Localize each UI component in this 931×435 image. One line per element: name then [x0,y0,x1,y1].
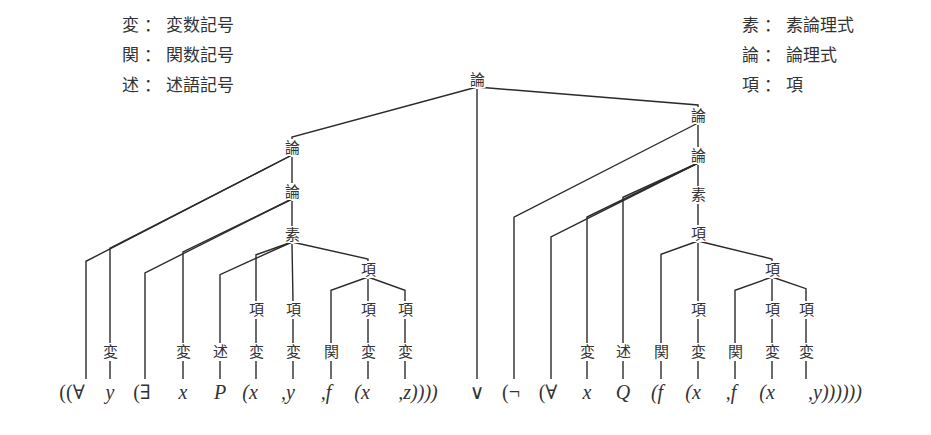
tree-node: 項 [285,302,302,318]
tree-node: 変 [248,344,265,360]
tree-node: 論 [690,108,707,124]
formula-token: P [214,381,226,403]
parse-tree-edges [0,0,931,435]
formula-token: (¬ [502,381,520,403]
tree-edge [368,277,405,301]
formula-token: (∃ [133,381,151,403]
tree-edge [698,241,772,261]
formula-token: x [179,381,188,403]
tree-edge [183,199,292,343]
tree-node: 論 [284,140,301,156]
tree-node: 変 [102,344,119,360]
formula-token: (x [759,381,775,403]
tree-edge [587,163,698,343]
tree-node: 項 [764,262,781,278]
tree-edge [292,244,293,301]
tree-edge [110,155,292,343]
formula-token: y [106,381,115,403]
tree-node: 関 [727,344,744,360]
tree-node: 論 [469,72,486,88]
tree-edge [292,87,477,139]
formula-token: (x [242,381,258,403]
formula-token: ,y [281,381,295,403]
tree-node: 項 [248,302,265,318]
formula-token: (x [354,381,370,403]
formula-token: ,y)))))) [808,381,862,403]
formula-token: ,f [321,381,332,403]
tree-edge [772,277,806,301]
tree-node: 述 [615,344,632,360]
tree-node: 変 [690,344,707,360]
tree-node: 変 [579,344,596,360]
tree-node: 述 [212,344,229,360]
tree-node: 変 [764,344,781,360]
tree-node: 項 [798,302,815,318]
formula-token: ,z)))) [398,381,437,403]
tree-node: 項 [397,302,414,318]
tree-node: 項 [360,262,377,278]
tree-node: 変 [397,344,414,360]
tree-node: 項 [360,302,377,318]
tree-node: 変 [285,344,302,360]
tree-edge [661,241,698,343]
tree-node: 変 [175,344,192,360]
tree-node: 関 [323,344,340,360]
tree-node: 論 [284,184,301,200]
tree-node: 関 [653,344,670,360]
formula-token: ((∀ [59,381,84,403]
tree-node: 素 [690,187,707,203]
tree-node: 素 [284,227,301,243]
tree-node: 論 [690,148,707,164]
tree-edge [292,242,368,261]
formula-token: ∨ [470,381,485,403]
formula-token: ,f [726,381,737,403]
tree-node: 項 [690,226,707,242]
formula-token: (∀ [539,381,558,403]
formula-token: (f [651,381,663,403]
tree-node: 項 [690,302,707,318]
tree-node: 変 [798,344,815,360]
formula-token: (x [685,381,701,403]
tree-node: 項 [764,302,781,318]
tree-edge [477,87,698,107]
formula-token: Q [616,381,630,403]
formula-token: x [583,381,592,403]
tree-node: 変 [360,344,377,360]
